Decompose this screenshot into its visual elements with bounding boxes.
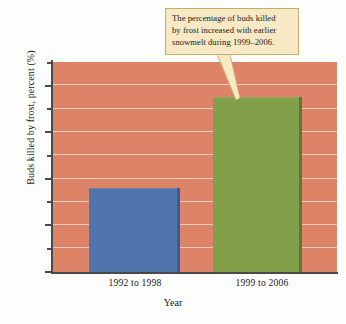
bar-1999-side: [299, 97, 302, 272]
y-tick-40: [45, 178, 52, 180]
bar-1999-face: [213, 97, 299, 272]
bar-1992-to-1998[interactable]: [89, 188, 180, 272]
x-axis-line: [51, 272, 338, 274]
y-tick-20: [45, 224, 52, 226]
y-tick-10: [47, 248, 52, 250]
bar-1999-to-2006[interactable]: [213, 97, 302, 272]
gridline-80: [52, 84, 337, 85]
plot-area: [52, 62, 337, 272]
callout-line-1: The percentage of buds killed: [172, 13, 293, 25]
callout-annotation: The percentage of buds killed by frost i…: [165, 8, 299, 55]
y-tick-90: [47, 62, 52, 64]
chart-figure: 0 20 40 60 80 Buds killed by frost, perc…: [0, 0, 346, 324]
y-tick-50: [47, 155, 52, 157]
y-tick-60: [45, 131, 52, 133]
callout-line-3: snowmelt during 1999–2006.: [172, 37, 293, 49]
x-axis-title: Year: [0, 297, 346, 308]
y-axis-line: [51, 60, 53, 274]
callout-line-2: by frost increased with earlier: [172, 25, 293, 37]
y-tick-80: [45, 85, 52, 87]
bar-1992-side: [177, 188, 180, 272]
y-tick-30: [47, 201, 52, 203]
y-axis-title: Buds killed by frost, percent (%): [25, 25, 36, 210]
y-tick-0: [45, 271, 52, 273]
y-tick-70: [47, 108, 52, 110]
x-category-label-1999-to-2006: 1999 to 2006: [177, 277, 346, 288]
bar-1992-face: [89, 188, 177, 272]
